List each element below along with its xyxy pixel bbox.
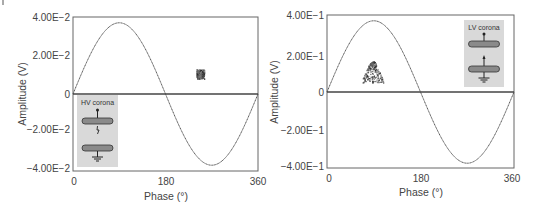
x-axis-title: Phase (°) bbox=[144, 190, 188, 202]
y-tick-label: 2.00E−2 bbox=[32, 50, 70, 61]
y-tick-label: 4.00E−2 bbox=[32, 12, 70, 23]
y-tick-label: 0 bbox=[318, 87, 324, 98]
inset-label: HV corona bbox=[81, 99, 114, 106]
x-tick-label: 0 bbox=[326, 173, 332, 184]
y-axis-title: Amplitude (V) bbox=[16, 62, 28, 126]
y-axis-title: Amplitude (V) bbox=[268, 60, 280, 124]
inset-label: LV corona bbox=[468, 24, 499, 31]
x-tick-label: 0 bbox=[71, 176, 77, 187]
y-tick-label: −2.00E−2 bbox=[27, 124, 71, 135]
chart-panel-lv-corona: LV corona 4.00E−1 2.00E−1 0 −2.00E−1 −4.… bbox=[268, 0, 536, 206]
electrode-top bbox=[82, 118, 113, 124]
pd-cluster bbox=[363, 61, 385, 83]
electrode-bottom bbox=[82, 145, 113, 151]
electrode-bottom bbox=[469, 66, 500, 72]
y-tick-label: 4.00E−1 bbox=[286, 10, 324, 21]
y-tick-label: 0 bbox=[64, 89, 70, 100]
x-axis-title: Phase (°) bbox=[399, 186, 443, 198]
electrode-top bbox=[469, 41, 500, 47]
chart-panel-hv-corona: HV corona 4.00E−2 2.00E−2 0 −2.00E−2 −4.… bbox=[0, 0, 268, 206]
y-tick-label: −4.00E−1 bbox=[281, 161, 325, 172]
x-tick-label: 180 bbox=[158, 176, 175, 187]
y-tick-label: −2.00E−1 bbox=[281, 125, 325, 136]
inset-lv-corona: LV corona bbox=[464, 20, 504, 87]
y-tick-label: −4.00E−2 bbox=[27, 163, 71, 174]
x-tick-label: 180 bbox=[413, 173, 430, 184]
inset-hv-corona: HV corona bbox=[77, 95, 118, 167]
x-tick-label: 360 bbox=[504, 173, 521, 184]
chart-svg-left: HV corona 4.00E−2 2.00E−2 0 −2.00E−2 −4.… bbox=[0, 0, 268, 206]
chart-svg-right: LV corona 4.00E−1 2.00E−1 0 −2.00E−1 −4.… bbox=[268, 0, 536, 206]
x-tick-label: 360 bbox=[250, 176, 267, 187]
pd-cluster bbox=[196, 69, 205, 80]
y-tick-label: 2.00E−1 bbox=[286, 51, 324, 62]
